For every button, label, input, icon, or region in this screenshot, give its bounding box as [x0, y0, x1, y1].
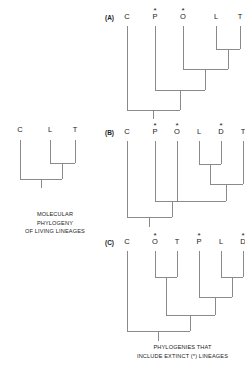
panel-a-tree-diagram: [105, 24, 245, 124]
panel-c-tip-label-d: D: [237, 238, 245, 246]
panel-c-tree-diagram: [105, 249, 245, 349]
panel-a-label: (A): [105, 14, 114, 21]
panel-c-tip-label-c: C: [121, 238, 133, 246]
panel-b: (B) * * * C P O L D T: [105, 123, 245, 228]
panel-b-tip-label-l: L: [193, 128, 205, 136]
molecular-phylogeny-panel: C L T MOLECULAR PHYLOGENY OF LIVING LINE…: [0, 126, 110, 226]
bottom-caption: PHYLOGENIES THAT INCLUDE EXTINCT (*) LIN…: [120, 343, 245, 360]
panel-b-tree-diagram: [105, 139, 245, 234]
molecular-caption-line-2: PHYLOGENY: [0, 219, 110, 228]
panel-a-tip-label-p: P: [149, 13, 161, 21]
panel-a-tip-label-t: T: [234, 13, 245, 21]
molecular-caption-line-3: OF LIVING LINEAGES: [0, 227, 110, 236]
panel-c-tip-label-p: P: [193, 238, 205, 246]
panel-a: (A) * * C P O L T: [105, 8, 245, 118]
panel-b-tip-label-p: P: [149, 128, 161, 136]
panel-c-tip-label-o: O: [149, 238, 161, 246]
panel-c: (C) * * * C O T P L D: [105, 233, 245, 343]
bottom-caption-line-1: PHYLOGENIES THAT: [120, 343, 245, 352]
molecular-tip-label-l: L: [44, 126, 56, 134]
molecular-caption-line-1: MOLECULAR: [0, 210, 110, 219]
panel-b-tip-label-t: T: [237, 128, 245, 136]
molecular-tree-diagram: [0, 136, 110, 198]
panel-c-tip-label-l: L: [215, 238, 227, 246]
panel-a-tip-label-o: O: [177, 13, 189, 21]
panel-c-tip-label-t: T: [171, 238, 183, 246]
molecular-caption: MOLECULAR PHYLOGENY OF LIVING LINEAGES: [0, 210, 110, 236]
panel-b-label: (B): [105, 129, 114, 136]
panel-c-label: (C): [105, 239, 114, 246]
molecular-tip-label-c: C: [14, 126, 26, 134]
panel-b-tip-label-d: D: [215, 128, 227, 136]
panel-b-tip-label-o: O: [171, 128, 183, 136]
panel-b-tip-label-c: C: [121, 128, 133, 136]
bottom-caption-line-2: INCLUDE EXTINCT (*) LINEAGES: [120, 352, 245, 361]
molecular-tip-label-t: T: [69, 126, 81, 134]
panel-a-tip-label-c: C: [121, 13, 133, 21]
panel-a-tip-label-l: L: [210, 13, 222, 21]
